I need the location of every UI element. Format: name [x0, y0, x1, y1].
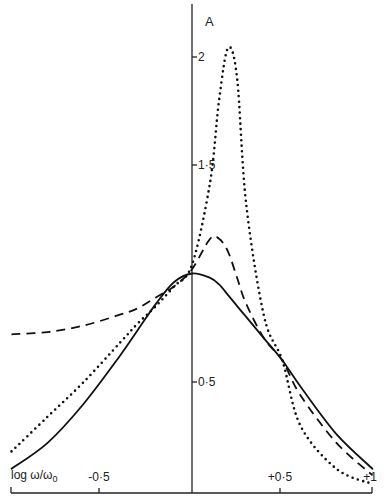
- x-axis-title-main: log ω/ω: [11, 468, 52, 482]
- x-label-minus-half: -0·5: [88, 470, 109, 484]
- x-axis-title-sub: 0: [52, 474, 57, 484]
- x-label-plus-half: +0·5: [268, 470, 292, 484]
- y-label-1-5: 1·5: [198, 158, 215, 172]
- y-label-2: 2: [198, 50, 205, 64]
- y-axis-title: A: [205, 14, 214, 29]
- x-axis-title: log ω/ω0: [11, 468, 57, 484]
- chart: [0, 0, 386, 503]
- y-label-0-5: 0·5: [198, 375, 215, 389]
- x-label-one: +1: [363, 470, 377, 484]
